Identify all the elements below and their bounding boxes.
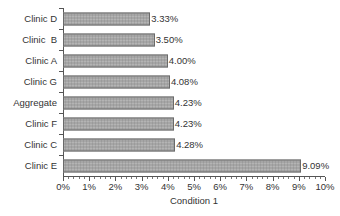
category-label: Clinic B [22, 35, 57, 45]
x-axis-minor-tick [94, 177, 95, 179]
bar-row: Aggregate4.23% [63, 92, 325, 113]
x-axis-minor-tick [278, 177, 279, 179]
bar-value-label: 4.28% [176, 140, 203, 150]
y-axis-tick [59, 29, 63, 30]
x-axis-minor-tick [100, 177, 101, 179]
x-axis-minor-tick [252, 177, 253, 179]
x-axis-minor-tick [304, 177, 305, 179]
x-axis-title: Condition 1 [63, 196, 325, 206]
x-axis-minor-tick [210, 177, 211, 179]
category-label: Clinic E [25, 161, 57, 171]
x-axis-minor-tick [121, 177, 122, 179]
x-axis-tick-label: 1% [82, 182, 96, 192]
category-label: Clinic G [24, 77, 57, 87]
bar-row: Clinic E9.09% [63, 155, 325, 176]
x-axis-tick-label: 8% [266, 182, 280, 192]
x-axis-minor-tick [147, 177, 148, 179]
bar-value-label: 9.09% [302, 161, 329, 171]
y-axis-tick [59, 8, 63, 9]
x-axis-minor-tick [73, 177, 74, 179]
x-axis-minor-tick [309, 177, 310, 179]
x-axis-minor-tick [189, 177, 190, 179]
bar: 4.23% [63, 117, 174, 130]
x-axis-minor-tick [131, 177, 132, 179]
bar-row: Clinic A4.00% [63, 50, 325, 71]
bar-value-label: 4.00% [169, 56, 196, 66]
bar-value-label: 3.33% [151, 14, 178, 24]
x-axis-minor-tick [315, 177, 316, 179]
x-axis-minor-tick [320, 177, 321, 179]
x-axis-minor-tick [236, 177, 237, 179]
x-axis-minor-tick [68, 177, 69, 179]
bar-value-label: 4.23% [175, 119, 202, 129]
x-axis-tick-label: 10% [315, 182, 334, 192]
category-label: Clinic D [24, 14, 57, 24]
x-axis-minor-tick [257, 177, 258, 179]
x-axis-minor-tick [288, 177, 289, 179]
bar-value-label: 3.50% [156, 35, 183, 45]
bar: 3.50% [63, 33, 155, 46]
bar-row: Clinic D3.33% [63, 8, 325, 29]
bar: 4.23% [63, 96, 174, 109]
x-axis-minor-tick [157, 177, 158, 179]
x-axis-minor-tick [84, 177, 85, 179]
x-axis-minor-tick [294, 177, 295, 179]
bar-row: Clinic B3.50% [63, 29, 325, 50]
x-axis-minor-tick [231, 177, 232, 179]
x-axis-tick-label: 5% [187, 182, 201, 192]
x-axis-tick-label: 2% [109, 182, 123, 192]
plot-area: Clinic D3.33%Clinic B3.50%Clinic A4.00%C… [63, 8, 325, 176]
bar: 3.33% [63, 12, 150, 25]
x-axis-minor-tick [184, 177, 185, 179]
x-axis-tick-label: 9% [292, 182, 306, 192]
bar-row: Clinic C4.28% [63, 134, 325, 155]
y-axis-tick [59, 113, 63, 114]
bar-value-label: 4.23% [175, 98, 202, 108]
y-axis-tick [59, 134, 63, 135]
category-label: Aggregate [13, 98, 57, 108]
bar: 9.09% [63, 159, 301, 172]
category-label: Clinic A [25, 56, 57, 66]
category-label: Clinic F [25, 119, 57, 129]
x-axis-minor-tick [241, 177, 242, 179]
y-axis-tick [59, 71, 63, 72]
x-axis-minor-tick [163, 177, 164, 179]
category-label: Clinic C [24, 140, 57, 150]
y-axis-tick [59, 155, 63, 156]
x-axis-minor-tick [126, 177, 127, 179]
x-axis-minor-tick [178, 177, 179, 179]
x-axis-minor-tick [110, 177, 111, 179]
bar-chart: Clinic D3.33%Clinic B3.50%Clinic A4.00%C… [0, 0, 340, 216]
x-axis-tick-label: 7% [240, 182, 254, 192]
x-axis-minor-tick [173, 177, 174, 179]
bar: 4.00% [63, 54, 168, 67]
x-axis-minor-tick [204, 177, 205, 179]
x-axis-tick-label: 4% [161, 182, 175, 192]
x-axis-minor-tick [267, 177, 268, 179]
x-axis-tick-label: 6% [213, 182, 227, 192]
x-axis-tick-label: 3% [135, 182, 149, 192]
x-axis-minor-tick [136, 177, 137, 179]
y-axis-tick [59, 92, 63, 93]
x-axis-minor-tick [262, 177, 263, 179]
x-axis-minor-tick [199, 177, 200, 179]
bar: 4.28% [63, 138, 175, 151]
x-axis-tick-label: 0% [56, 182, 70, 192]
bar: 4.08% [63, 75, 170, 88]
x-axis-minor-tick [105, 177, 106, 179]
x-axis-minor-tick [152, 177, 153, 179]
x-axis-minor-tick [283, 177, 284, 179]
y-axis-tick [59, 50, 63, 51]
x-axis-minor-tick [215, 177, 216, 179]
bar-value-label: 4.08% [171, 77, 198, 87]
bar-row: Clinic G4.08% [63, 71, 325, 92]
x-axis-minor-tick [225, 177, 226, 179]
x-axis-minor-tick [79, 177, 80, 179]
bar-row: Clinic F4.23% [63, 113, 325, 134]
